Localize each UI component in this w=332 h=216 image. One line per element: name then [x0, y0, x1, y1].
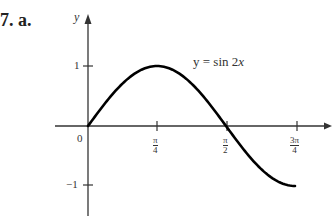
- frac-numerator: π: [153, 136, 158, 145]
- frac-numerator: π: [223, 136, 228, 145]
- ytick-label-neg1: −1: [66, 178, 78, 190]
- origin-label: 0: [77, 132, 83, 144]
- xtick-label-pi4: π 4: [153, 136, 158, 155]
- equation-text: y = sin 2: [193, 54, 238, 69]
- frac-denominator: 4: [292, 146, 297, 155]
- frac-numerator: 3π: [290, 136, 299, 145]
- sine-graph: [0, 0, 332, 216]
- function-label: y = sin 2x: [193, 54, 244, 70]
- frac-denominator: 4: [153, 146, 158, 155]
- y-axis-arrow-icon: [85, 14, 92, 24]
- xtick-label-3pi4: 3π 4: [290, 136, 299, 155]
- x-axis-arrow-icon: [324, 123, 332, 130]
- equation-variable: x: [238, 54, 244, 69]
- frac-denominator: 2: [223, 146, 228, 155]
- ytick-label-1: 1: [74, 59, 80, 71]
- y-axis-label: y: [74, 10, 79, 25]
- xtick-label-pi2: π 2: [223, 136, 228, 155]
